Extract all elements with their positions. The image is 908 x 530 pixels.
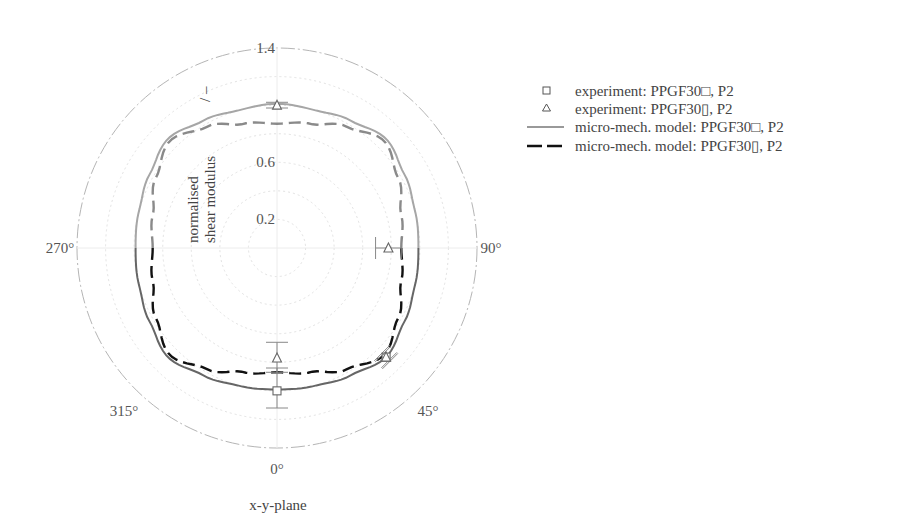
square-marker-icon	[543, 87, 550, 94]
radial-axis-title: normalised shear modulus	[185, 156, 218, 243]
angle-label-90: 90°	[481, 240, 502, 256]
legend-entry-solid: micro-mech. model: PPGF30□, P2	[527, 119, 784, 135]
angle-labels: 0°45°90°270°315°	[46, 240, 502, 477]
polar-chart: 0.20.61.4 0°45°90°270°315° normalised sh…	[0, 0, 908, 530]
axis-unit: / –	[197, 86, 213, 102]
radial-tick-label: 0.6	[256, 154, 275, 170]
legend: experiment: PPGF30□, P2 experiment: PPGF…	[527, 83, 784, 154]
angle-label-45: 45°	[418, 403, 439, 419]
triangle-marker-icon	[273, 353, 282, 362]
radial-tick-label: 1.4	[256, 40, 275, 56]
legend-label: experiment: PPGF30□, P2	[575, 83, 734, 99]
legend-label: experiment: PPGF30▯, P2	[575, 101, 733, 117]
plane-label: x-y-plane	[249, 497, 307, 513]
axis-title-line1: normalised	[185, 176, 201, 243]
radial-tick-labels: 0.20.61.4	[256, 40, 275, 227]
angle-label-270: 270°	[46, 240, 75, 256]
legend-entry-square: experiment: PPGF30□, P2	[543, 83, 734, 99]
angle-label-0: 0°	[270, 461, 284, 477]
radial-tick-label: 0.2	[256, 211, 275, 227]
legend-entry-dashed: micro-mech. model: PPGF30▯, P2	[527, 138, 783, 154]
legend-label: micro-mech. model: PPGF30□, P2	[575, 119, 784, 135]
legend-label: micro-mech. model: PPGF30▯, P2	[575, 138, 783, 154]
legend-entry-triangle: experiment: PPGF30▯, P2	[543, 101, 733, 117]
axis-title-line2: shear modulus	[202, 156, 218, 243]
angle-label-315: 315°	[110, 403, 139, 419]
triangle-marker-icon	[543, 104, 551, 111]
square-marker-icon	[273, 387, 281, 395]
